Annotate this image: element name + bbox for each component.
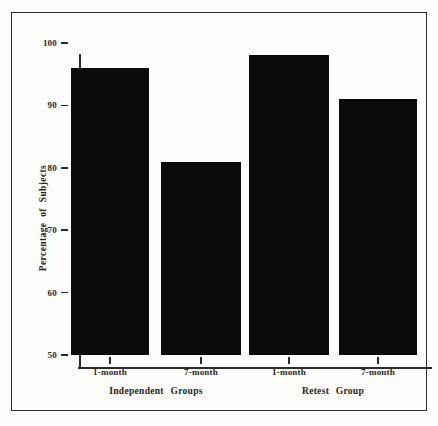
x-tick-1 <box>109 357 111 364</box>
x-tick-4 <box>377 357 379 364</box>
group-label-2: Retest Group <box>302 386 364 396</box>
figure-frame-border: Percentage of Subjects 5060708090100 1-m… <box>11 12 427 411</box>
x-tick-label-1: 1-month <box>93 367 127 377</box>
x-tick-label-2: 7-month <box>184 367 218 377</box>
group-label-1: Independent Groups <box>109 386 202 396</box>
bars-layer <box>12 43 438 355</box>
x-tick-2 <box>200 357 202 364</box>
x-tick-label-4: 7-month <box>361 367 395 377</box>
bar-3 <box>249 55 329 355</box>
bar-4 <box>339 99 417 355</box>
bar-1 <box>71 68 149 355</box>
figure-canvas: Percentage of Subjects 5060708090100 1-m… <box>0 0 438 426</box>
x-tick-label-3: 1-month <box>272 367 306 377</box>
x-tick-3 <box>288 357 290 364</box>
bar-2 <box>161 162 241 355</box>
